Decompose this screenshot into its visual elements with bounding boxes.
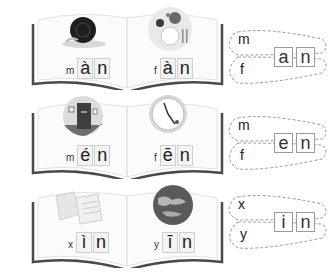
final-box: a <box>274 47 293 67</box>
initial-bottom: f <box>240 147 244 163</box>
snail-icon <box>58 12 110 50</box>
initial-top: m <box>238 117 250 133</box>
initial-bottom: y <box>240 226 247 242</box>
pinyin-vowel: ī <box>162 232 178 253</box>
exercise-row-1: m à n f à n m f a n <box>0 2 336 92</box>
book-outline-icon <box>30 91 225 179</box>
pinyin-final: n <box>94 58 110 79</box>
pinyin-label: m à n <box>66 58 111 79</box>
pinyin-vowel: é <box>77 145 93 166</box>
final-box: n <box>296 212 315 232</box>
syllable-combiner: x y i n <box>226 192 332 252</box>
exercise-row-3: x ì n y ī n x y i n <box>0 180 336 270</box>
final-box: e <box>274 133 293 153</box>
final-box: i <box>274 212 293 232</box>
pinyin-vowel: ē <box>160 145 176 166</box>
initial-top: x <box>238 196 245 212</box>
pinyin-final: n <box>94 145 110 166</box>
globe-icon <box>152 184 194 226</box>
exercise-row-2: m é n f ē n m f e n <box>0 91 336 181</box>
final-box: n <box>296 47 315 67</box>
pinyin-label: f à n <box>154 58 194 79</box>
pinyin-label: y ī n <box>154 232 196 253</box>
pinyin-final: n <box>179 232 195 253</box>
pinyin-initial: m <box>66 152 74 163</box>
meal-plate-icon <box>146 5 194 53</box>
open-book: m à n f à n <box>30 2 225 90</box>
pinyin-vowel: à <box>77 58 93 79</box>
pinyin-label: m é n <box>66 145 111 166</box>
pinyin-vowel: ì <box>76 232 92 253</box>
pinyin-final: n <box>177 145 193 166</box>
pinyin-initial: f <box>154 152 157 163</box>
pinyin-final: n <box>93 232 109 253</box>
open-book: m é n f ē n <box>30 91 225 179</box>
pinyin-final: n <box>177 58 193 79</box>
final-box: n <box>296 133 315 153</box>
initial-bottom: f <box>240 61 244 77</box>
initial-top: m <box>238 31 250 47</box>
pinyin-vowel: à <box>160 58 176 79</box>
pinyin-initial: f <box>154 65 157 76</box>
pinyin-initial: y <box>154 239 159 250</box>
open-book: x ì n y ī n <box>30 180 225 268</box>
pinyin-label: x ì n <box>68 232 110 253</box>
syllable-combiner: m f e n <box>226 113 332 173</box>
pinyin-label: f ē n <box>154 145 194 166</box>
syllable-combiner: m f a n <box>226 27 332 87</box>
pinyin-initial: m <box>66 65 74 76</box>
door-icon <box>62 95 104 137</box>
letters-paper-icon <box>54 190 106 226</box>
clock-icon <box>148 94 188 134</box>
pinyin-initial: x <box>68 239 73 250</box>
